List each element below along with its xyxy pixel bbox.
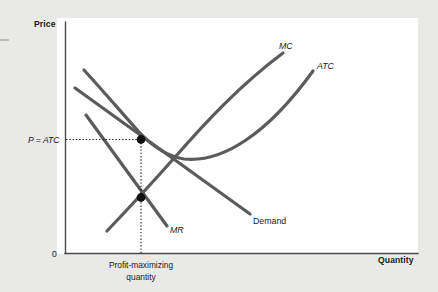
equilibrium-point-marker — [137, 135, 146, 144]
plot-area-background — [57, 18, 418, 254]
economics-diagram: Price Quantity 0 P = ATC MC ATC MR Deman… — [0, 0, 438, 292]
profit-max-note-line1: Profit-maximizing — [109, 260, 174, 270]
mr-curve-label: MR — [170, 225, 184, 235]
profit-max-note-line2: quantity — [126, 272, 156, 282]
price-tick-label: P = ATC — [28, 135, 60, 145]
origin-label: 0 — [52, 249, 57, 259]
demand-curve-label: Demand — [253, 216, 286, 226]
y-axis-label: Price — [34, 19, 56, 29]
mr-mc-intersection-marker — [137, 193, 146, 202]
x-axis-label: Quantity — [378, 255, 414, 265]
mc-curve-label: MC — [279, 41, 293, 51]
atc-curve-label: ATC — [316, 61, 335, 71]
